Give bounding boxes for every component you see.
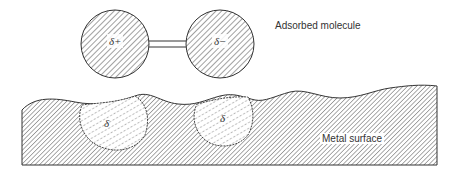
induced-charge-label-right: δ: [220, 112, 226, 124]
surface-label: Metal surface: [320, 133, 384, 144]
atom-label-negative: δ−: [214, 35, 227, 47]
atom-label-positive: δ+: [109, 35, 122, 47]
adsorbed-molecule: δ+ δ−: [81, 10, 254, 78]
induced-charge-label-left: δ: [104, 117, 110, 129]
molecule-label: Adsorbed molecule: [275, 20, 361, 31]
adsorption-diagram: δ δ δ+ δ−: [0, 0, 451, 180]
